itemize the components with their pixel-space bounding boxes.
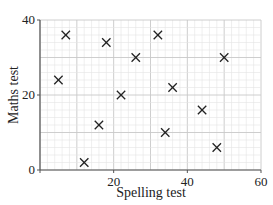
- x-tick-label: 60: [255, 174, 268, 189]
- y-axis-title: Maths test: [6, 66, 21, 124]
- y-tick-labels: 02040: [22, 12, 35, 177]
- scatter-chart: 204060 02040 Spelling test Maths test: [0, 0, 273, 205]
- y-tick-label: 0: [29, 162, 36, 177]
- axes: [37, 20, 261, 173]
- y-tick-label: 40: [22, 12, 35, 27]
- x-axis-title: Spelling test: [116, 185, 186, 200]
- grid: [40, 20, 261, 170]
- y-tick-label: 20: [22, 87, 35, 102]
